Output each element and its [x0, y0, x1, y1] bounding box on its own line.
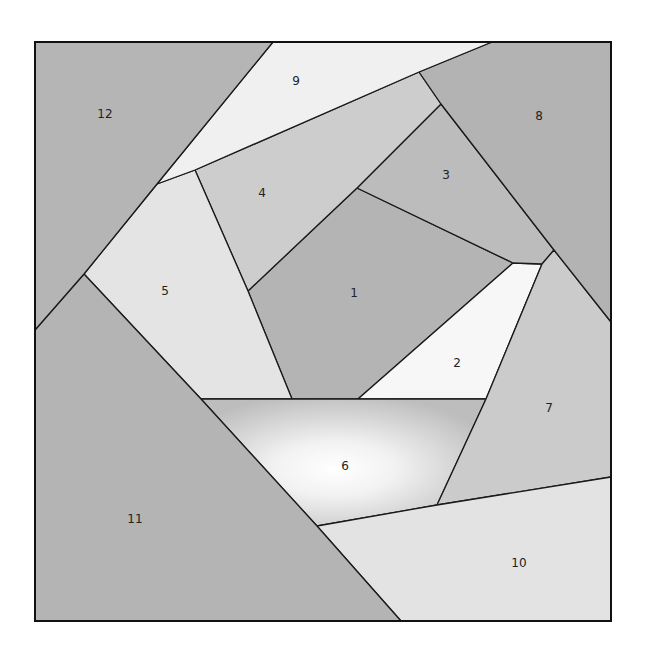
piece-label-12: 12	[97, 107, 112, 121]
piece-label-7: 7	[545, 401, 553, 415]
piece-label-2: 2	[453, 356, 461, 370]
pieces-group	[35, 42, 611, 621]
quilt-block-diagram: 123456789101112	[0, 0, 647, 661]
piece-label-8: 8	[535, 109, 543, 123]
piece-label-6: 6	[341, 459, 349, 473]
piece-label-11: 11	[127, 512, 142, 526]
piece-label-1: 1	[350, 286, 358, 300]
piece-label-5: 5	[161, 284, 169, 298]
piece-label-3: 3	[442, 168, 450, 182]
piece-label-10: 10	[511, 556, 526, 570]
piece-label-9: 9	[292, 74, 300, 88]
piece-label-4: 4	[258, 186, 266, 200]
